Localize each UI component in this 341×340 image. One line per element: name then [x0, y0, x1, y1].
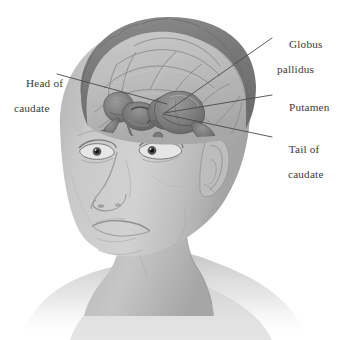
label-tail-of-caudate: Tail of caudate	[277, 131, 324, 205]
anatomical-figure: Globus pallidus Putamen Tail of caudate …	[0, 0, 341, 340]
label-globus-pallidus-line2: pallidus	[277, 63, 323, 75]
brain-cutaway	[81, 17, 256, 151]
label-head-of-caudate: Head of caudate	[14, 65, 63, 139]
label-putamen: Putamen	[277, 89, 330, 126]
label-tail-of-caudate-line1: Tail of	[289, 143, 320, 155]
label-head-of-caudate-line1: Head of	[26, 77, 63, 89]
label-globus-pallidus-line1: Globus	[289, 38, 323, 50]
label-head-of-caudate-line2: caudate	[14, 102, 63, 114]
label-putamen-line1: Putamen	[289, 101, 330, 113]
label-tail-of-caudate-line2: caudate	[277, 168, 324, 180]
